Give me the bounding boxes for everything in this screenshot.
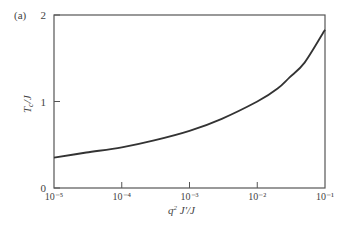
plot-frame <box>54 15 325 188</box>
chart-canvas: (a) 012 10⁻⁵10⁻⁴10⁻³10⁻²10⁻¹ Tc/J q2 J′/… <box>0 0 349 226</box>
x-axis-label: q2 J′/J <box>168 204 196 216</box>
y-tick-label: 2 <box>41 9 47 21</box>
x-tick-label: 10⁻² <box>248 191 266 202</box>
x-axis-ticks: 10⁻⁵10⁻⁴10⁻³10⁻²10⁻¹ <box>45 182 334 202</box>
tc-curve <box>54 30 325 158</box>
y-axis-label: Tc/J <box>21 94 35 113</box>
x-tick-label: 10⁻⁴ <box>113 191 132 202</box>
y-axis-ticks: 012 <box>41 9 61 194</box>
y-tick-label: 1 <box>41 96 47 108</box>
x-tick-label: 10⁻¹ <box>316 191 334 202</box>
x-tick-label: 10⁻³ <box>181 191 199 202</box>
panel-label: (a) <box>14 9 27 22</box>
x-tick-label: 10⁻⁵ <box>45 191 64 202</box>
